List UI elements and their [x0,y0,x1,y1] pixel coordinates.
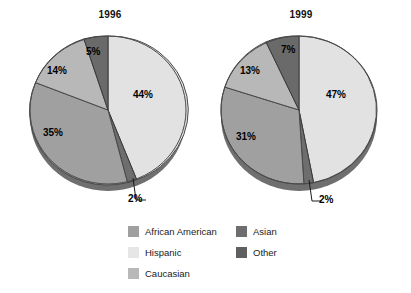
legend-column-right: Asian Other [236,221,277,263]
legend-item-asian: Asian [236,221,277,241]
pie-1996-label-hispanic: 44% [133,89,153,100]
legend-item-hispanic: Hispanic [128,242,217,262]
pie-1996-label-asian: 2% [128,193,142,204]
pie-1999-label-asian: 2% [319,194,333,205]
pie-1999-slice-hispanic [299,36,377,183]
legend-item-african-american: African American [128,221,217,241]
pie-1996-label-african-american: 35% [43,127,63,138]
legend-swatch-asian [236,226,247,237]
pie-chart-1996 [18,24,198,204]
pie-1996-svg [18,24,198,204]
legend-column-left: African American Hispanic Caucasian [128,221,217,284]
pie-1999-label-caucasian: 13% [240,65,260,76]
chart-title-1999: 1999 [261,9,341,20]
pie-1999-svg [209,24,389,204]
legend-item-other: Other [236,242,277,262]
legend-label-african-american: African American [145,226,217,237]
chart-legend: African American Hispanic Caucasian Asia… [128,221,358,283]
pie-1996-label-other: 5% [86,46,100,57]
pie-1999-label-african-american: 31% [236,131,256,142]
pie-chart-1999 [209,24,389,204]
legend-label-hispanic: Hispanic [145,247,181,258]
legend-item-caucasian: Caucasian [128,263,217,283]
legend-swatch-caucasian [128,268,139,279]
legend-swatch-other [236,247,247,258]
legend-swatch-african-american [128,226,139,237]
pie-1996-label-caucasian: 14% [47,65,67,76]
legend-label-asian: Asian [253,226,277,237]
chart-title-1996: 1996 [70,9,150,20]
legend-swatch-hispanic [128,247,139,258]
pie-1999-label-hispanic: 47% [326,89,346,100]
legend-label-other: Other [253,247,277,258]
pie-1999-label-other: 7% [281,44,295,55]
pie-chart-figure: 1996 [0,0,411,293]
legend-label-caucasian: Caucasian [145,268,190,279]
